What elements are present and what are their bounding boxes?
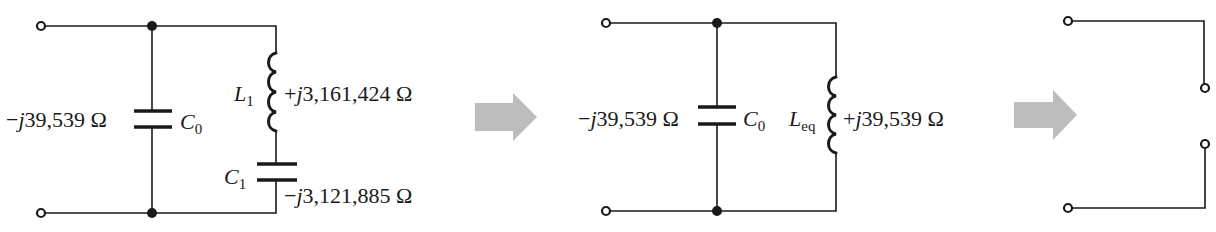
- c3-top-wire: [1072, 21, 1204, 84]
- c2-bottom-wire: [609, 153, 836, 211]
- c1-c1-impedance-label: −j3,121,885 Ω: [284, 183, 412, 208]
- c2-node-bottom: [712, 206, 722, 216]
- c2-inductor-leq-icon: [829, 77, 837, 153]
- circuit-3-open: [1064, 17, 1209, 212]
- c1-node-top: [147, 21, 157, 31]
- c3-bottom-wire: [1072, 148, 1205, 208]
- c2-top-wire: [609, 23, 836, 77]
- c1-l1-impedance-label: +j3,161,424 Ω: [284, 81, 412, 106]
- circuit-1: −j39,539 Ω C0 L1 +j3,161,424 Ω C1 −j3,12…: [6, 21, 412, 218]
- c3-open-terminal-lower: [1201, 140, 1209, 148]
- c1-c0-name-label: C0: [180, 109, 202, 137]
- c3-terminal-bottom-left: [1064, 204, 1072, 212]
- c1-terminal-top: [37, 22, 45, 30]
- c2-leq-impedance-label: +j39,539 Ω: [843, 106, 944, 131]
- circuit-diagram: −j39,539 Ω C0 L1 +j3,161,424 Ω C1 −j3,12…: [0, 0, 1216, 232]
- c1-l1-name-label: L1: [233, 81, 254, 109]
- c2-c0-impedance-label: −j39,539 Ω: [578, 106, 679, 131]
- c1-top-wire: [44, 26, 276, 53]
- c1-c0-impedance-label: −j39,539 Ω: [6, 107, 107, 132]
- c1-node-bottom: [147, 208, 157, 218]
- c2-node-top: [712, 18, 722, 28]
- c2-terminal-top: [602, 19, 610, 27]
- c3-terminal-top-left: [1064, 17, 1072, 25]
- c3-open-terminal-upper: [1201, 84, 1209, 92]
- c2-capacitor-c0: [698, 107, 736, 124]
- c1-capacitor-c1: [257, 164, 297, 180]
- c1-c1-name-label: C1: [224, 164, 246, 192]
- c1-terminal-bottom: [37, 209, 45, 217]
- right-arrow-icon: [475, 93, 537, 141]
- c1-capacitor-c0: [134, 111, 172, 127]
- c2-c0-name-label: C0: [743, 106, 765, 134]
- c1-inductor-l1-icon: [269, 53, 277, 131]
- circuit-2: −j39,539 Ω C0 Leq +j39,539 Ω: [578, 18, 944, 216]
- right-arrow-icon: [1014, 90, 1077, 140]
- c2-leq-name-label: Leq: [788, 106, 816, 134]
- c2-terminal-bottom: [602, 207, 610, 215]
